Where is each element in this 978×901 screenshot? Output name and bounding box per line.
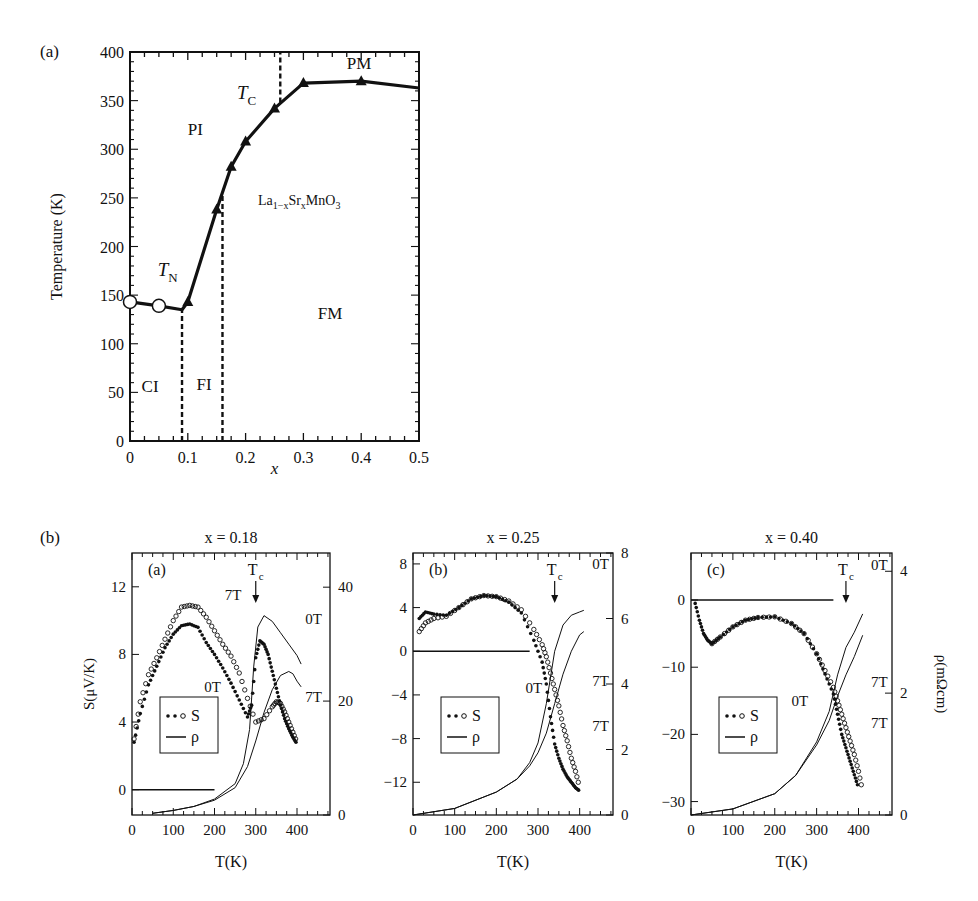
y2-tick-label: 2 bbox=[900, 685, 908, 701]
s-7t-point bbox=[537, 637, 541, 641]
s-7t-point bbox=[160, 643, 164, 647]
legend-dot-icon bbox=[173, 714, 177, 718]
legend-box bbox=[160, 697, 218, 753]
s-7t-point bbox=[265, 713, 269, 717]
s-7t-point bbox=[855, 764, 859, 768]
s-7t-point bbox=[544, 655, 548, 659]
s-7t-point bbox=[565, 739, 569, 743]
s-0t-point bbox=[202, 637, 206, 641]
y-tick-label: 4 bbox=[400, 600, 408, 616]
s-0t-point bbox=[143, 697, 147, 701]
s-0t-point bbox=[545, 682, 549, 686]
s-7t-point bbox=[152, 661, 156, 665]
x-tick-label: 0.1 bbox=[178, 449, 198, 466]
y2-tick-label: 6 bbox=[621, 611, 629, 627]
x-tick-label: 100 bbox=[162, 822, 185, 838]
s-7t-point bbox=[166, 631, 170, 635]
x-axis-label: T(K) bbox=[215, 853, 247, 871]
plot-frame bbox=[691, 553, 892, 815]
s-0t-point bbox=[217, 659, 221, 663]
s-7t-point bbox=[436, 616, 440, 620]
s-0t-point bbox=[850, 766, 854, 770]
y-tick-label: 0 bbox=[116, 433, 124, 450]
s-0t-point bbox=[141, 705, 145, 709]
field-label: 0T bbox=[526, 680, 543, 696]
s-0t-point bbox=[209, 647, 213, 651]
field-label: 7T bbox=[871, 674, 888, 690]
s-7t-point bbox=[534, 632, 538, 636]
s-0t-point bbox=[198, 629, 202, 633]
y2-tick-label: 0 bbox=[338, 807, 346, 823]
s-0t-point bbox=[698, 618, 702, 622]
s-7t-point bbox=[232, 660, 236, 664]
s-0t-point bbox=[268, 661, 272, 665]
region-label: FI bbox=[196, 375, 211, 394]
seebeck-chart-x040: x = 0.400100200300400−30−20−100024T(K)ρ(… bbox=[662, 529, 950, 871]
s-7t-point bbox=[564, 733, 568, 737]
s-0t-point bbox=[137, 719, 141, 723]
seebeck-chart-x018: x = 0.1801002003004000481202040T(K)S(μV/… bbox=[81, 529, 353, 871]
y-tick-label: 300 bbox=[100, 141, 124, 158]
region-label: CI bbox=[142, 377, 159, 396]
s-0t-point bbox=[554, 746, 558, 750]
s-7t-point bbox=[240, 679, 244, 683]
s-0t-point bbox=[847, 756, 851, 760]
x-tick-label: 300 bbox=[527, 822, 550, 838]
s-0t-point bbox=[534, 644, 538, 648]
s-0t-point bbox=[167, 639, 171, 643]
y-tick-label: 200 bbox=[100, 239, 124, 256]
region-label: FM bbox=[318, 304, 343, 323]
s-0t-point bbox=[699, 622, 703, 626]
s-0t-point bbox=[532, 639, 536, 643]
s-0t-point bbox=[550, 722, 554, 726]
y-tick-label: 12 bbox=[111, 579, 126, 595]
s-0t-point bbox=[700, 625, 704, 629]
s-7t-point bbox=[174, 614, 178, 618]
s-0t-point bbox=[693, 602, 697, 606]
s-0t-point bbox=[277, 695, 281, 699]
panel-title: x = 0.40 bbox=[765, 529, 818, 546]
s-0t-point bbox=[165, 642, 169, 646]
s-7t-point bbox=[171, 618, 175, 622]
subpanel-label: (a) bbox=[148, 561, 166, 579]
s-7t-point bbox=[155, 656, 159, 660]
s-7t-point bbox=[146, 673, 150, 677]
s-7t-point bbox=[844, 725, 848, 729]
legend-box bbox=[441, 697, 499, 753]
legend-label-rho: ρ bbox=[472, 728, 480, 746]
y-tick-label: 100 bbox=[100, 336, 124, 353]
x-tick-label: 300 bbox=[805, 822, 828, 838]
tc-label: T bbox=[838, 561, 848, 578]
y-tick-label: 0 bbox=[678, 592, 686, 608]
legend-label-s: S bbox=[191, 707, 200, 724]
s-7t-point bbox=[552, 687, 556, 691]
s-7t-point bbox=[223, 646, 227, 650]
s-7t-point bbox=[245, 696, 249, 700]
legend-dot-icon bbox=[447, 714, 451, 718]
s-0t-point bbox=[526, 625, 530, 629]
y2-axis-label: ρ(mΩcm) bbox=[933, 655, 950, 714]
phase-diagram-chart: 00.10.20.30.40.5050100150200250300350400… bbox=[48, 44, 429, 478]
region-label: PI bbox=[188, 120, 203, 139]
s-0t-point bbox=[849, 763, 853, 767]
y-tick-label: 350 bbox=[100, 93, 124, 110]
y2-tick-label: 40 bbox=[338, 579, 353, 595]
s-7t-point bbox=[569, 756, 573, 760]
s-0t-point bbox=[701, 628, 705, 632]
legend-label-s: S bbox=[472, 707, 481, 724]
y-tick-label: 8 bbox=[400, 556, 408, 572]
s-0t-point bbox=[229, 681, 233, 685]
s-7t-point bbox=[841, 717, 845, 721]
s-7t-point bbox=[568, 750, 572, 754]
s-7t-point bbox=[527, 621, 531, 625]
s-0t-point bbox=[273, 678, 277, 682]
x-tick-label: 0 bbox=[126, 449, 134, 466]
tc-label-sub: c bbox=[849, 570, 854, 582]
s-7t-point bbox=[177, 609, 181, 613]
s-7t-point bbox=[847, 734, 851, 738]
s-7t-point bbox=[848, 739, 852, 743]
s-0t-point bbox=[553, 742, 557, 746]
s-7t-point bbox=[849, 743, 853, 747]
y-tick-label: 50 bbox=[108, 384, 124, 401]
s-0t-point bbox=[837, 717, 841, 721]
